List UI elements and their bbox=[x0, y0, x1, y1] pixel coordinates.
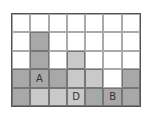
grid-cell bbox=[122, 88, 140, 106]
grid-cell bbox=[85, 32, 103, 50]
grid-cell bbox=[67, 69, 85, 87]
shape-grid: ADB bbox=[11, 13, 141, 107]
grid-cell bbox=[49, 14, 67, 32]
grid-cell bbox=[30, 14, 48, 32]
cell-label: B bbox=[109, 91, 116, 102]
grid-cell bbox=[30, 88, 48, 106]
grid-cell bbox=[103, 69, 121, 87]
grid-cell bbox=[103, 32, 121, 50]
grid-cell bbox=[103, 14, 121, 32]
grid-cell bbox=[67, 14, 85, 32]
grid-cell bbox=[49, 88, 67, 106]
grid-cell bbox=[85, 14, 103, 32]
grid-cell bbox=[85, 51, 103, 69]
grid-cell bbox=[85, 69, 103, 87]
grid-cell bbox=[30, 51, 48, 69]
grid-cell bbox=[67, 32, 85, 50]
grid-cell bbox=[12, 69, 30, 87]
grid-cell: D bbox=[67, 88, 85, 106]
cell-label: D bbox=[72, 91, 80, 102]
grid-cell bbox=[67, 51, 85, 69]
cell-label: A bbox=[36, 73, 43, 84]
grid-cell bbox=[122, 32, 140, 50]
grid-cell bbox=[30, 32, 48, 50]
grid-cell bbox=[122, 14, 140, 32]
grid-cell bbox=[49, 51, 67, 69]
grid-cell bbox=[49, 32, 67, 50]
grid-cell bbox=[12, 88, 30, 106]
grid-cell bbox=[12, 51, 30, 69]
grid-cell: B bbox=[103, 88, 121, 106]
grid-cell bbox=[122, 51, 140, 69]
grid-cell: A bbox=[30, 69, 48, 87]
grid-cell bbox=[49, 69, 67, 87]
grid-cell bbox=[103, 51, 121, 69]
grid-cell bbox=[85, 88, 103, 106]
grid-cell bbox=[12, 32, 30, 50]
grid-cell bbox=[12, 14, 30, 32]
grid-cell bbox=[122, 69, 140, 87]
